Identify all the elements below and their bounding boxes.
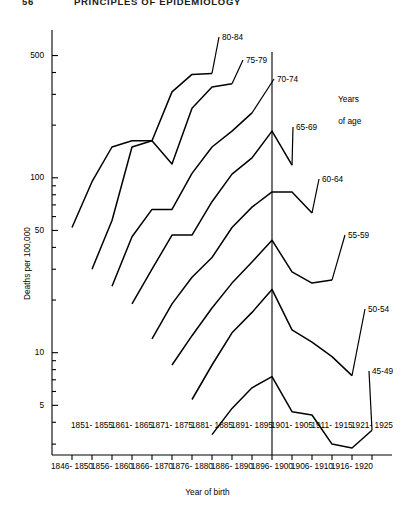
y-tick-label: 50 (10, 225, 44, 235)
series-label-70-74: 70-74 (277, 74, 298, 84)
curve-75-79 (92, 84, 232, 270)
leader-80-84 (212, 37, 219, 73)
y-axis-title: Deaths per 100,000 (22, 227, 32, 300)
x-tick-label-lower: 1916- 1920 (329, 461, 375, 472)
curve-80-84 (72, 74, 212, 228)
figure-root: 56 PRINCIPLES OF EPIDEMIOLOGY Deaths per… (0, 0, 415, 518)
legend-title-line1: Years (338, 94, 359, 104)
series-label-45-49: 45-49 (372, 366, 393, 376)
leader-50-54 (352, 309, 365, 376)
series-label-80-84: 80-84 (222, 32, 243, 42)
x-tick-label-upper: 1921- 1925 (349, 420, 395, 431)
curve-55-59 (172, 240, 332, 365)
legend-title: Years of age (329, 83, 361, 138)
chart-canvas (0, 0, 415, 518)
series-label-55-59: 55-59 (348, 230, 369, 240)
leader-65-69 (292, 127, 293, 165)
series-label-65-69: 65-69 (296, 122, 317, 132)
curve-65-69 (132, 131, 292, 304)
y-tick-label: 500 (10, 50, 44, 60)
leader-60-64 (312, 179, 319, 213)
series-label-60-64: 60-64 (322, 174, 343, 184)
leader-55-59 (332, 235, 345, 280)
legend-title-line2: of age (338, 116, 361, 126)
y-tick-label: 5 (10, 400, 44, 410)
y-tick-label: 100 (10, 172, 44, 182)
series-label-75-79: 75-79 (246, 55, 267, 65)
curve-45-49 (212, 377, 372, 448)
leader-75-79 (232, 60, 243, 84)
leader-70-74 (252, 79, 274, 113)
y-tick-label: 10 (10, 347, 44, 357)
curve-70-74 (112, 113, 252, 286)
series-label-50-54: 50-54 (368, 304, 389, 314)
x-axis-title: Year of birth (0, 487, 415, 497)
